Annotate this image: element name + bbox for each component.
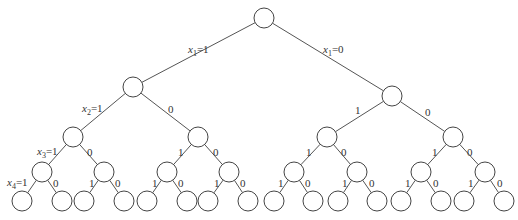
tree-node [431,191,451,211]
tree-node [12,191,32,211]
edge-label-1: 1 [355,104,361,116]
edge-label-1: 1 [214,177,220,189]
edge-label-0: 0 [305,177,311,189]
edge-label-0: 0 [369,177,375,189]
tree-node [443,127,463,147]
edge-label-0: 0 [433,177,439,189]
tree-node [157,162,177,182]
edge-label-x1-eq-1: x1=1 [187,43,209,58]
edge-label-0: 0 [53,177,59,189]
tree-node [317,127,337,147]
tree-node [411,162,431,182]
edge-label-0: 0 [425,106,431,118]
tree-node [137,191,157,211]
tree-node [63,127,83,147]
edge-label-0: 0 [467,146,473,158]
tree-node [475,162,495,182]
edge-label-1: 1 [468,177,474,189]
tree-node [32,162,52,182]
edge-label-0: 0 [115,177,121,189]
tree-node [74,191,94,211]
tree-node [238,191,258,211]
tree-node [494,191,514,211]
tree-node [254,8,274,28]
edge-label-0: 0 [497,177,503,189]
binary-tree-diagram: x1=1 x1=0 x2=1 0 1 0 x3=1 0 1 0 1 0 1 0 … [0,0,518,220]
edge-label-0: 0 [178,177,184,189]
edge-label-1: 1 [89,177,95,189]
edge-label-1: 1 [306,146,312,158]
edge-label-0: 0 [168,103,174,115]
tree-edge [141,93,190,131]
edge-label-0: 0 [213,146,219,158]
tree-node [52,191,72,211]
edge-label-1: 1 [432,146,438,158]
tree-node [303,191,323,211]
tree-node [188,127,208,147]
edge-label-1: 1 [405,177,411,189]
tree-node [94,162,114,182]
tree-node [198,191,218,211]
tree-node [454,191,474,211]
edge-label-1: 1 [152,177,158,189]
tree-node [328,191,348,211]
tree-node [347,162,367,182]
edge-label-1: 1 [178,146,184,158]
tree-node [219,162,239,182]
edge-label-0: 0 [341,146,347,158]
tree-node [264,191,284,211]
tree-node [284,162,304,182]
edge-label-1: 1 [278,177,284,189]
tree-edge [28,180,37,193]
edge-label-0: 0 [87,146,93,158]
edge-label-x4-eq-1: x4=1 [6,176,28,191]
tree-node [123,77,143,97]
tree-node [114,191,134,211]
tree-node [382,86,402,106]
tree-edge [400,102,444,132]
edge-label-0: 0 [240,177,246,189]
tree-node [177,191,197,211]
tree-node [367,191,387,211]
tree-node [391,191,411,211]
edge-label-1: 1 [342,177,348,189]
